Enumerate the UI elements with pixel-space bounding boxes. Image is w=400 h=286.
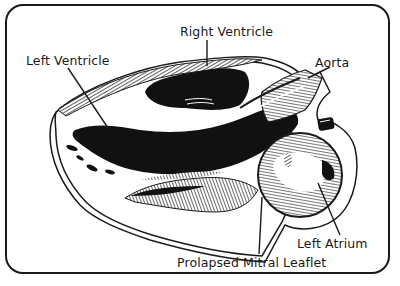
label-left-ventricle: Left Ventricle	[26, 55, 110, 68]
label-left-atrium: Left Atrium	[297, 238, 368, 251]
aorta	[261, 70, 322, 122]
label-right-ventricle: Right Ventricle	[180, 26, 273, 39]
label-aorta: Aorta	[315, 57, 349, 70]
label-prolapsed-mitral-leaflet: Prolapsed Mitral Leaflet	[177, 257, 326, 270]
